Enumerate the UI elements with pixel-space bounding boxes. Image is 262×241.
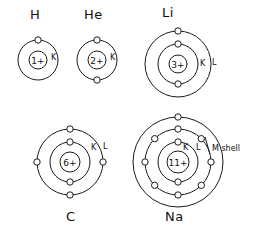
electron-l-1-carbon <box>67 126 73 132</box>
m-shell-leader-line <box>204 136 218 156</box>
atomic-models-diagram: H 1+ K He 2+ K Li 3+ K <box>0 0 262 241</box>
electron-l-1-lithium <box>175 28 181 34</box>
electron-l-5-sodium <box>175 192 181 198</box>
electron-l-8-sodium <box>152 136 158 142</box>
shell-label-k-sodium: K <box>183 144 188 152</box>
element-label-lithium: Li <box>162 6 174 19</box>
nucleus-charge-hydrogen: 1+ <box>31 56 44 66</box>
shell-label-l-carbon: L <box>103 143 107 151</box>
shell-label-l-sodium: L <box>196 144 200 152</box>
shell-label-k-lithium: K <box>200 60 205 68</box>
electron-k-1-helium <box>94 37 100 43</box>
nucleus-charge-sodium: 11+ <box>169 158 188 168</box>
electron-l-4-carbon <box>34 159 40 165</box>
atom-helium: 2+ <box>69 32 129 88</box>
shell-label-k-helium: K <box>110 54 115 62</box>
electron-m-1-sodium <box>175 114 181 120</box>
nucleus-charge-carbon: 6+ <box>63 158 76 168</box>
nucleus-charge-helium: 2+ <box>90 56 103 66</box>
electron-l-2-carbon <box>100 159 106 165</box>
electron-k-1-hydrogen <box>35 37 41 43</box>
electron-k-2-helium <box>94 77 100 83</box>
shell-label-k-carbon: K <box>91 144 96 152</box>
electron-k-1-lithium <box>175 41 181 47</box>
electron-k-2-lithium <box>175 81 181 87</box>
electron-k-2-carbon <box>67 179 73 185</box>
electron-l-1-sodium <box>175 126 181 132</box>
electron-l-3-carbon <box>67 192 73 198</box>
electron-l-6-sodium <box>152 182 158 188</box>
atom-hydrogen: 1+ <box>10 32 70 88</box>
electron-k-1-sodium <box>175 139 181 145</box>
shell-label-k-hydrogen: K <box>51 54 56 62</box>
shell-label-l-lithium: L <box>212 59 216 67</box>
atom-lithium: 3+ <box>140 26 220 102</box>
element-label-helium: He <box>84 8 103 21</box>
electron-l-3-sodium <box>208 159 214 165</box>
atom-carbon: 6+ <box>30 122 112 200</box>
electron-l-7-sodium <box>142 159 148 165</box>
electron-k-2-sodium <box>175 179 181 185</box>
electron-l-4-sodium <box>198 182 204 188</box>
atom-sodium: 11+ <box>130 112 234 212</box>
element-label-sodium: Na <box>165 210 184 223</box>
nucleus-charge-lithium: 3+ <box>171 60 184 70</box>
element-label-hydrogen: H <box>30 8 40 21</box>
element-label-carbon: C <box>66 210 76 223</box>
electron-k-1-carbon <box>67 139 73 145</box>
